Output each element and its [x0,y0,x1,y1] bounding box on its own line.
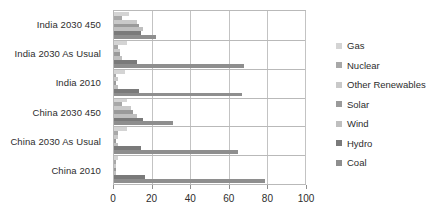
x-tick-label: 40 [185,193,196,204]
x-tick-label: 60 [223,193,234,204]
legend-swatch-icon [336,121,342,127]
legend-item[interactable]: Solar [336,99,441,110]
bar-group [114,155,305,184]
bar-row [114,179,305,183]
legend-label: Nuclear [347,60,380,71]
x-tick-label: 100 [298,193,315,204]
legend-label: Coal [347,157,367,168]
category-axis-labels: India 2030 450India 2030 As UsualIndia 2… [0,10,107,185]
x-tick-label: 80 [262,193,273,204]
bar-row [114,93,305,97]
legend-label: Wind [347,118,369,129]
bar-group [114,97,305,126]
category-label: India 2030 As Usual [0,39,107,68]
plot-block: India 2030 450India 2030 As UsualIndia 2… [0,0,330,221]
bar-row [114,150,305,154]
x-tick [267,185,268,189]
legend-swatch-icon [336,82,342,88]
bar [114,35,156,39]
bar-row [114,35,305,39]
bar [114,121,173,125]
category-label: China 2030 As Usual [0,127,107,156]
plot-area [113,10,306,185]
category-label: China 2010 [0,156,107,185]
legend-item[interactable]: Nuclear [336,60,441,71]
bar-row [114,121,305,125]
bar [114,93,242,97]
bar [114,179,265,183]
bar-row [114,64,305,68]
legend-item[interactable]: Hydro [336,138,441,149]
category-label: India 2030 450 [0,10,107,39]
x-axis-labels: 020406080100 [113,193,306,209]
x-tick [190,185,191,189]
bar-group [114,40,305,69]
bar-group [114,69,305,98]
gridline [305,11,306,184]
legend: GasNuclearOther RenewablesSolarWindHydro… [336,40,441,168]
bar-group [114,126,305,155]
x-tick-label: 0 [110,193,116,204]
x-tick-label: 20 [146,193,157,204]
legend-swatch-icon [336,62,342,68]
x-tick [229,185,230,189]
x-tick [306,185,307,189]
legend-item[interactable]: Gas [336,40,441,51]
category-label: China 2030 450 [0,98,107,127]
legend-label: Hydro [347,138,372,149]
bar-groups [114,11,305,184]
bar-chart: India 2030 450India 2030 As UsualIndia 2… [0,0,443,221]
legend-label: Other Renewables [347,79,426,90]
bar-group [114,11,305,40]
bar [114,64,244,68]
category-label: India 2010 [0,68,107,97]
x-axis-ticks [113,185,306,193]
legend-swatch-icon [336,101,342,107]
legend-item[interactable]: Coal [336,157,441,168]
legend-swatch-icon [336,160,342,166]
legend-label: Gas [347,40,364,51]
bar [114,150,238,154]
legend-item[interactable]: Wind [336,118,441,129]
legend-swatch-icon [336,43,342,49]
x-tick [152,185,153,189]
legend-swatch-icon [336,140,342,146]
x-tick [113,185,114,189]
legend-label: Solar [347,99,369,110]
legend-item[interactable]: Other Renewables [336,79,441,90]
